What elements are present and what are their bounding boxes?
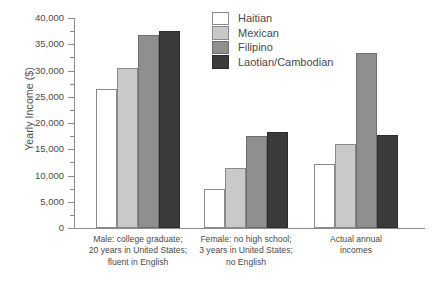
legend-label: Filipino — [238, 41, 273, 53]
legend-item[interactable]: Mexican — [212, 26, 333, 41]
x-axis-category-label-line: incomes — [281, 245, 431, 256]
bar — [314, 164, 335, 228]
y-axis-tick — [68, 228, 74, 229]
bar — [117, 68, 138, 228]
legend-swatch-icon — [212, 41, 229, 54]
bar — [225, 168, 246, 228]
legend-label: Haitian — [238, 12, 272, 24]
legend-item[interactable]: Laotian/Cambodian — [212, 55, 333, 70]
bar-group — [96, 18, 180, 228]
x-axis-category-label-line: no English — [171, 257, 321, 268]
y-axis-tick-label: 35,000 — [4, 38, 64, 49]
bar — [356, 53, 377, 228]
legend-swatch-icon — [212, 12, 229, 25]
legend-item[interactable]: Filipino — [212, 40, 333, 55]
bar — [159, 31, 180, 228]
legend: HaitianMexicanFilipinoLaotian/Cambodian — [212, 11, 333, 69]
bar — [246, 136, 267, 228]
bar — [96, 89, 117, 228]
y-axis-title: Yearly Income ($) — [23, 34, 35, 184]
y-axis-tick-label: 15,000 — [4, 143, 64, 154]
bar — [204, 189, 225, 228]
legend-swatch-icon — [212, 26, 229, 39]
bar-chart: Yearly Income ($) 05,00010,00015,00020,0… — [0, 0, 445, 293]
x-axis-category-label: Actual annualincomes — [281, 234, 431, 257]
y-axis-tick-label: 25,000 — [4, 91, 64, 102]
bar — [267, 132, 288, 228]
legend-swatch-icon — [212, 55, 229, 68]
legend-label: Laotian/Cambodian — [238, 56, 333, 68]
y-axis-tick-label: 0 — [4, 222, 64, 233]
legend-label: Mexican — [238, 27, 279, 39]
y-axis-tick-label: 30,000 — [4, 65, 64, 76]
bar — [377, 135, 398, 228]
bar — [335, 144, 356, 228]
y-axis-tick-label: 40,000 — [4, 12, 64, 23]
x-axis-line — [74, 228, 425, 229]
y-axis-tick-label: 10,000 — [4, 170, 64, 181]
y-axis-tick-label: 20,000 — [4, 117, 64, 128]
x-axis-category-label-line: Actual annual — [281, 234, 431, 245]
bar — [138, 35, 159, 228]
y-axis-tick-label: 5,000 — [4, 196, 64, 207]
legend-item[interactable]: Haitian — [212, 11, 333, 26]
